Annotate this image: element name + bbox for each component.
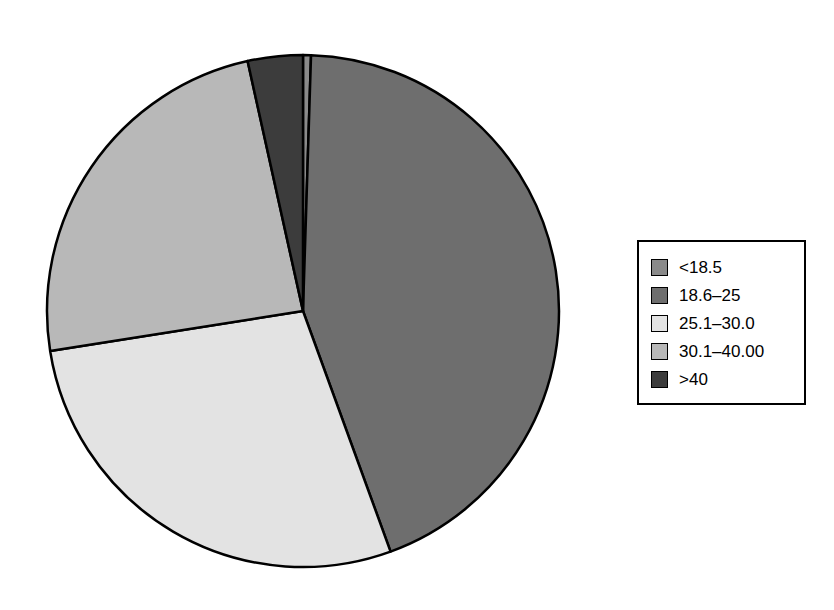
legend-item: >40 (651, 365, 804, 393)
legend-swatch-icon (651, 315, 668, 332)
legend-item-label: >40 (679, 371, 708, 388)
pie-slice-group (47, 55, 559, 567)
legend-swatch-icon (651, 343, 668, 360)
legend-item: 18.6–25 (651, 281, 804, 309)
legend-swatch-icon (651, 371, 668, 388)
legend-item: 30.1–40.00 (651, 337, 804, 365)
legend-item: <18.5 (651, 253, 804, 281)
chart-legend: <18.5 18.6–25 25.1–30.0 30.1–40.00 >40 (637, 240, 806, 405)
legend-item-label: 30.1–40.00 (679, 343, 764, 360)
pie-chart-figure: <18.5 18.6–25 25.1–30.0 30.1–40.00 >40 (0, 0, 834, 610)
legend-item: 25.1–30.0 (651, 309, 804, 337)
legend-swatch-icon (651, 259, 668, 276)
legend-item-label: <18.5 (679, 259, 722, 276)
legend-item-label: 18.6–25 (679, 287, 740, 304)
legend-item-label: 25.1–30.0 (679, 315, 755, 332)
legend-swatch-icon (651, 287, 668, 304)
